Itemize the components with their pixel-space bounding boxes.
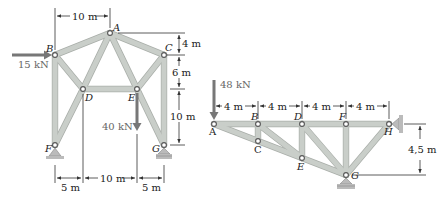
node-D bbox=[81, 87, 86, 92]
dim-right-upper-label: 4 m bbox=[182, 38, 202, 49]
member-CE bbox=[137, 55, 164, 89]
label-A: A bbox=[112, 22, 120, 33]
node-E bbox=[135, 87, 140, 92]
node-F bbox=[53, 143, 58, 148]
node-G bbox=[344, 173, 349, 178]
truss-figure: A B C D E F G 15 kN 40 kN 10 m bbox=[0, 0, 443, 197]
label-E: E bbox=[127, 92, 136, 103]
node-C bbox=[162, 53, 167, 58]
label-A: A bbox=[208, 126, 217, 137]
label-G: G bbox=[152, 143, 160, 154]
label-D: D bbox=[84, 92, 93, 103]
load-48kN-label: 48 kN bbox=[220, 79, 251, 90]
load-40kN-label: 40 kN bbox=[102, 121, 133, 132]
node-C bbox=[256, 139, 261, 144]
right-truss: A B C D E F G H 48 kN 4 m 4 m bbox=[208, 79, 437, 189]
label-G: G bbox=[351, 170, 359, 181]
dim-bottom-right-label: 5 m bbox=[142, 182, 162, 193]
dim-bottom-left-label: 5 m bbox=[61, 182, 81, 193]
dim-top-label: 10 m bbox=[72, 11, 98, 22]
label-F: F bbox=[44, 143, 53, 154]
node-B bbox=[256, 122, 261, 127]
dim-panel-4-label: 4 m bbox=[356, 101, 376, 112]
node-E bbox=[300, 156, 305, 161]
dim-right-lower-label: 10 m bbox=[170, 111, 196, 122]
left-truss: A B C D E F G 15 kN 40 kN 10 m bbox=[12, 8, 202, 193]
dim-panel-2-label: 4 m bbox=[268, 101, 288, 112]
member-EG bbox=[137, 89, 164, 145]
node-A bbox=[108, 31, 113, 36]
label-D: D bbox=[293, 111, 302, 122]
node-D bbox=[300, 122, 305, 127]
dim-panel-1-label: 4 m bbox=[224, 101, 244, 112]
support-H-icon bbox=[392, 115, 403, 133]
node-G bbox=[162, 143, 167, 148]
member-BD bbox=[55, 55, 83, 89]
member-HG bbox=[346, 124, 389, 175]
node-F bbox=[344, 122, 349, 127]
dim-right-middle-label: 6 m bbox=[172, 67, 192, 78]
member-DF bbox=[55, 89, 83, 145]
label-C: C bbox=[165, 42, 173, 53]
dim-panel-3-label: 4 m bbox=[312, 101, 332, 112]
dim-height-label: 4,5 m bbox=[408, 144, 437, 155]
label-H: H bbox=[383, 126, 393, 137]
label-C: C bbox=[254, 144, 262, 155]
label-E: E bbox=[296, 161, 305, 172]
dim-bottom-middle-label: 10 m bbox=[100, 173, 126, 184]
label-B: B bbox=[250, 111, 258, 122]
load-48kN-arrow-icon bbox=[210, 80, 219, 120]
load-15kN-label: 15 kN bbox=[18, 59, 49, 70]
